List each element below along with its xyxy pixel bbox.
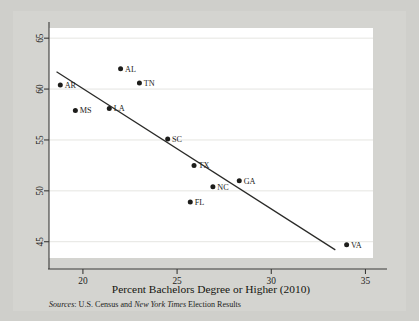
figure-panel: 4550556065 20253035 ARMSLAALTNSCFLTXNCGA… [13,11,406,311]
data-point-va [344,242,349,247]
data-point-label-sc: SC [172,135,183,144]
y-tick-label: 55 [35,135,45,145]
data-point-fl [188,200,193,205]
data-point-ms [73,108,78,113]
data-point-label-fl: FL [195,198,205,207]
data-point-label-ga: GA [244,177,256,186]
data-point-label-tx: TX [198,161,209,170]
y-axis: 4550556065 [35,33,49,246]
data-point-label-ar: AR [65,81,77,90]
y-tick-label: 60 [35,84,45,94]
data-point-tn [137,80,142,85]
data-point-tx [192,163,197,168]
data-point-label-al: AL [125,65,136,74]
x-tick-label: 35 [361,276,371,286]
data-point-al [118,66,123,71]
data-point-label-va: VA [351,241,362,250]
data-point-label-ms: MS [80,106,92,115]
y-tick-label: 65 [35,33,45,43]
data-point-la [107,106,112,111]
scatter-chart: 4550556065 20253035 ARMSLAALTNSCFLTXNCGA… [13,11,406,311]
y-tick-label: 45 [35,237,45,247]
plot-area-background [49,28,373,258]
data-point-label-la: LA [114,104,125,113]
x-axis-title: Percent Bachelors Degree or Higher (2010… [112,283,311,296]
data-point-ar [58,82,63,87]
y-tick-label: 50 [35,186,45,196]
data-point-sc [165,136,170,141]
data-point-nc [210,184,215,189]
data-point-label-nc: NC [217,183,229,192]
x-tick-label: 20 [78,276,88,286]
data-point-label-tn: TN [144,79,155,88]
data-point-ga [237,178,242,183]
